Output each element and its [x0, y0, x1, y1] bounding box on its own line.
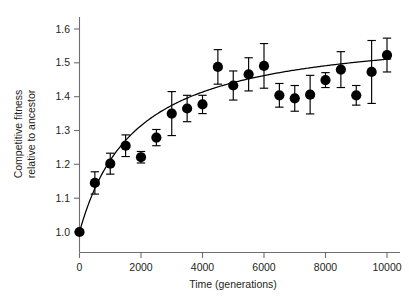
data-point	[74, 227, 84, 237]
y-tick-label: 1.5	[55, 56, 70, 68]
data-point	[351, 90, 361, 100]
data-point	[197, 99, 207, 109]
x-tick-label: 4000	[191, 261, 215, 273]
data-point	[320, 75, 330, 85]
y-axis-title-line1: Competitive fitness	[12, 90, 24, 179]
data-point	[136, 152, 146, 162]
chart-background	[0, 0, 414, 298]
data-point	[290, 93, 300, 103]
data-point	[121, 141, 131, 151]
y-axis-title: Competitive fitness relative to ancestor	[12, 89, 37, 178]
data-point	[167, 108, 177, 118]
data-point	[382, 50, 392, 60]
y-tick-label: 1.2	[55, 158, 70, 170]
x-tick-label: 8000	[314, 261, 338, 273]
data-point	[228, 80, 238, 90]
y-axis-title-line2: relative to ancestor	[25, 89, 37, 178]
x-axis-title: Time (generations)	[189, 278, 277, 290]
data-point	[274, 90, 284, 100]
data-point	[244, 69, 254, 79]
fitness-trajectory-chart: 1.6 1.5 1.4 1.3 1.2 1.1 1.0 0 2000 4000 …	[0, 0, 414, 298]
x-tick-label: 2000	[129, 261, 153, 273]
y-tick-label: 1.0	[55, 226, 70, 238]
data-point	[305, 90, 315, 100]
figure-container: 1.6 1.5 1.4 1.3 1.2 1.1 1.0 0 2000 4000 …	[0, 0, 414, 298]
data-point	[182, 103, 192, 113]
data-point	[90, 178, 100, 188]
x-tick-label: 6000	[252, 261, 276, 273]
y-tick-label: 1.3	[55, 124, 70, 136]
y-tick-label: 1.4	[55, 90, 70, 102]
x-tick-label: 10000	[372, 261, 401, 273]
data-point	[259, 61, 269, 71]
y-tick-label: 1.6	[55, 23, 70, 35]
x-tick-label: 0	[77, 261, 83, 273]
data-point	[367, 67, 377, 77]
data-point	[105, 159, 115, 169]
data-point	[213, 62, 223, 72]
y-tick-label: 1.1	[55, 192, 70, 204]
data-point	[336, 65, 346, 75]
data-point	[151, 133, 161, 143]
